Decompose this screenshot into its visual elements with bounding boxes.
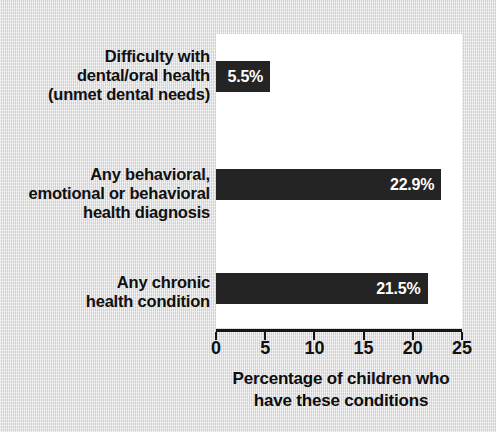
bar-row-2: 21.5% <box>216 273 428 304</box>
bar-value-label-1: 22.9% <box>390 176 441 194</box>
x-axis-title-line-1: have these conditions <box>196 390 486 412</box>
bar-1[interactable]: 22.9% <box>216 169 441 200</box>
bar-2[interactable]: 21.5% <box>216 273 428 304</box>
x-axis-tick-label-15: 15 <box>354 338 374 359</box>
x-axis-title: Percentage of children who have these co… <box>196 368 486 412</box>
category-label-0-line-0: Difficulty with <box>0 47 210 66</box>
bar-row-0: 5.5% <box>216 61 270 92</box>
plot-area: 5.5% 22.9% 21.5% <box>216 34 462 328</box>
x-axis-line <box>216 329 462 332</box>
category-label-1-line-0: Any behavioral, <box>0 165 210 184</box>
category-label-1-line-1: emotional or behavioral <box>0 184 210 203</box>
category-label-0-line-1: dental/oral health <box>0 66 210 85</box>
category-label-1-line-2: health diagnosis <box>0 203 210 222</box>
x-axis-tick-label-10: 10 <box>304 338 324 359</box>
x-axis-title-line-0: Percentage of children who <box>196 368 486 390</box>
category-label-1: Any behavioral, emotional or behavioral … <box>0 165 210 222</box>
chart-figure: Difficulty with dental/oral health (unme… <box>0 0 496 432</box>
bar-row-1: 22.9% <box>216 169 441 200</box>
x-axis-tick-label-25: 25 <box>452 338 472 359</box>
bar-value-label-0: 5.5% <box>227 68 270 86</box>
category-label-2-line-0: Any chronic <box>0 273 210 292</box>
x-axis-tick-label-5: 5 <box>260 338 270 359</box>
bar-0[interactable]: 5.5% <box>216 61 270 92</box>
category-label-2: Any chronic health condition <box>0 273 210 311</box>
category-label-2-line-1: health condition <box>0 292 210 311</box>
x-axis-tick-label-0: 0 <box>211 338 221 359</box>
bar-value-label-2: 21.5% <box>376 280 427 298</box>
category-label-0-line-2: (unmet dental needs) <box>0 85 210 104</box>
x-axis-tick-label-20: 20 <box>403 338 423 359</box>
category-label-0: Difficulty with dental/oral health (unme… <box>0 47 210 104</box>
